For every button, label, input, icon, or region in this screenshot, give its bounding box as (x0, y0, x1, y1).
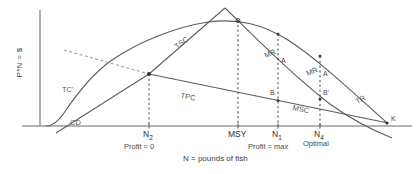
point-label-b: B (270, 89, 275, 96)
marker-point-a (277, 33, 280, 36)
x-tick-label-n1: N1 (272, 130, 282, 141)
x-tick-n2-sub: 2 (149, 134, 153, 141)
x-tick-label-n2: N2 (143, 130, 153, 141)
x-axis-label: N = pounds of fish (183, 155, 248, 163)
marker-point-b (277, 99, 280, 102)
point-label-a: A (281, 57, 286, 64)
point-label-k: K (391, 115, 396, 122)
curve-label-cd: CD (70, 119, 81, 127)
tc-prime-dashed-line (64, 50, 149, 74)
note-profit-zero: Profit = 0 (124, 143, 154, 151)
note-profit-max: Profit = max (248, 143, 288, 151)
point-label-a-prime: A' (323, 70, 329, 77)
fisheries-bioeconomic-diagram: P*N = $ TSC TPC TC' CD MR MR MSC TR A A'… (0, 0, 417, 174)
curve-label-tpc: TPC (180, 92, 196, 102)
marker-k (385, 121, 388, 124)
y-axis-label: P*N = $ (15, 33, 24, 93)
marker-point-a-prime (319, 55, 322, 58)
marker-n2-intersection (147, 72, 151, 76)
point-label-b-prime: B' (323, 89, 329, 96)
marker-point-b-prime (319, 98, 322, 101)
note-optimal: Optimal (303, 140, 329, 148)
curve-label-tc-prime: TC' (62, 86, 73, 94)
x-tick-n1-sub: 1 (278, 134, 282, 141)
x-tick-label-msy: MSY (228, 130, 246, 139)
tr-curve (46, 21, 386, 126)
